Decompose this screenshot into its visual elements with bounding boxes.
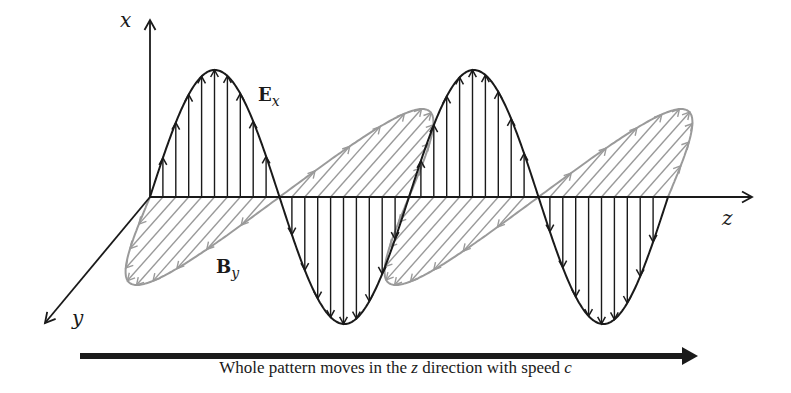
- y-axis-label: y: [72, 306, 83, 330]
- electric-field-label: Ex: [258, 84, 280, 109]
- e-symbol: E: [258, 84, 272, 105]
- figure-caption: Whole pattern moves in the z direction w…: [0, 358, 791, 378]
- b-symbol: B: [216, 256, 231, 277]
- z-axis-label: z: [722, 206, 733, 230]
- b-subscript: y: [231, 265, 239, 281]
- wave-diagram: [0, 0, 791, 393]
- coordinate-axes: [45, 20, 752, 323]
- caption-c: c: [564, 358, 572, 377]
- caption-part-2: direction with speed: [418, 358, 564, 377]
- caption-z: z: [411, 358, 418, 377]
- em-wave-figure: x z y Ex By Whole pattern moves in the z…: [0, 0, 791, 393]
- x-axis-label: x: [120, 8, 131, 32]
- magnetic-field-label: By: [216, 256, 239, 281]
- caption-part-1: Whole pattern moves in the: [219, 358, 411, 377]
- e-subscript: x: [272, 93, 280, 109]
